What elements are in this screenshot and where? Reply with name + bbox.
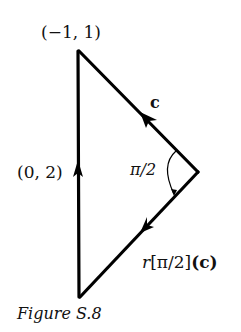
figure-caption: Figure S.8 bbox=[17, 306, 102, 322]
rotation-angle: [π/2] bbox=[150, 252, 191, 272]
left-edge-label: (0, 2) bbox=[17, 164, 63, 181]
left-edge bbox=[78, 51, 79, 297]
rotated-vector-label: r[π/2](c) bbox=[142, 254, 218, 271]
angle-label: π/2 bbox=[130, 162, 156, 178]
rotation-arg: (c) bbox=[191, 252, 217, 272]
c-vector-label: c bbox=[150, 95, 160, 111]
top-vertex-label: (−1, 1) bbox=[41, 24, 101, 41]
angle-arc bbox=[167, 151, 176, 194]
angle-label-text: π/2 bbox=[130, 160, 156, 179]
lower-right-edge bbox=[80, 172, 198, 297]
rotation-r: r bbox=[142, 252, 150, 272]
upper-right-edge bbox=[79, 51, 198, 172]
